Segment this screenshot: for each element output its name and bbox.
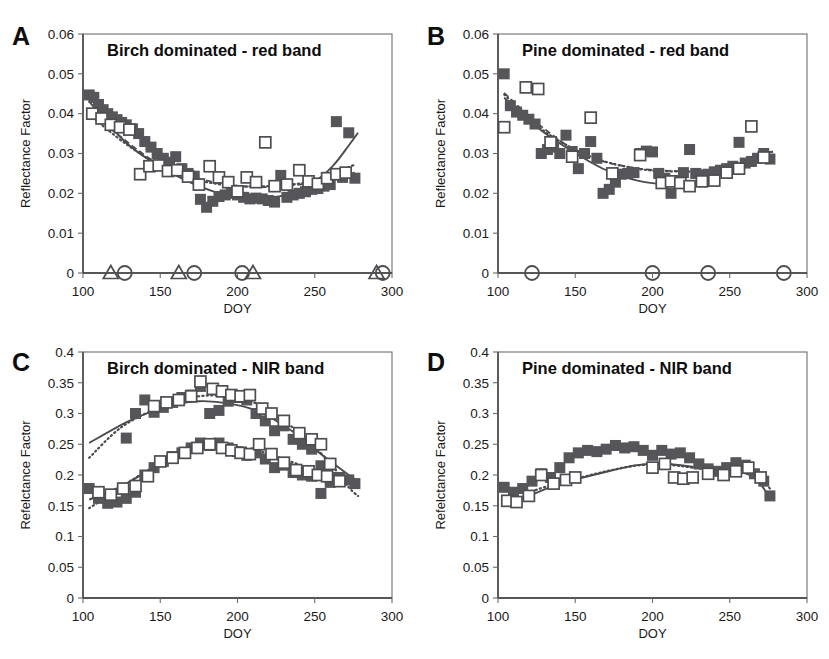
data-point-open [315,439,326,450]
data-point-open [254,439,265,450]
x-tick-label: 250 [303,609,326,624]
y-tick-label: 0.2 [470,468,489,483]
y-axis-title: Reflectance Factor [18,98,33,208]
data-point-open [179,447,190,458]
data-point-open [570,472,581,483]
data-point-open [192,442,203,453]
panel-letter-d: D [427,348,445,377]
data-point-open [118,483,129,494]
data-point-filled [130,408,141,419]
data-point-open [548,478,559,489]
panel-title: Pine dominated - NIR band [522,359,732,377]
data-point-open [533,83,544,94]
y-tick-label: 0 [66,591,74,606]
y-tick-label: 0.03 [48,146,74,161]
x-tick-label: 300 [381,284,404,299]
x-axis-title: DOY [638,301,667,316]
data-point-open [269,181,280,192]
panel-title: Birch dominated - red band [107,41,322,59]
x-axis-title: DOY [638,626,667,641]
data-point-filled [585,136,596,147]
data-point-filled [764,490,775,501]
data-point-filled [315,488,326,499]
data-point-open [499,122,510,133]
data-point-open [758,152,769,163]
y-tick-label: 0.25 [48,437,74,452]
data-point-open [281,179,292,190]
y-tick-label: 0.15 [48,499,74,514]
data-point-open [325,458,336,469]
y-tick-label: 0.01 [48,226,74,241]
data-point-open [266,449,277,460]
y-tick-label: 0.25 [463,437,489,452]
data-point-open [294,165,305,176]
y-tick-label: 0.4 [55,345,74,360]
data-point-open [709,175,720,186]
x-tick-label: 200 [226,284,249,299]
data-point-open [155,456,166,467]
x-tick-label: 150 [149,609,172,624]
y-tick-label: 0.3 [55,406,74,421]
data-point-open [743,462,754,473]
data-point-open [93,487,104,498]
x-tick-label: 250 [718,609,741,624]
y-tick-label: 0.05 [48,67,74,82]
data-point-filled [684,144,695,155]
data-point-filled [530,119,541,130]
data-point-open [536,470,547,481]
data-point-filled [554,462,565,473]
y-axis-title: Reflectance Factor [433,98,448,208]
data-point-open [734,163,745,174]
y-tick-label: 0.01 [463,226,489,241]
data-point-open [266,408,277,419]
x-tick-label: 100 [487,609,510,624]
data-point-open [520,82,531,93]
x-tick-label: 250 [718,284,741,299]
y-tick-label: 0.35 [48,376,74,391]
data-point-open [291,465,302,476]
data-point-filled [343,127,354,138]
data-point-open [142,471,153,482]
x-axis-title: DOY [223,301,252,316]
data-point-open [244,390,255,401]
data-point-open [718,470,729,481]
y-axis-title: Refelctance Factor [433,420,448,530]
x-tick-label: 150 [564,609,587,624]
data-point-open [659,458,670,469]
y-tick-label: 0.02 [463,186,489,201]
x-tick-label: 150 [149,284,172,299]
data-point-open [647,462,658,473]
y-tick-label: 0.06 [48,27,74,42]
data-point-open [545,137,556,148]
data-point-filled [499,68,510,79]
data-point-open [585,112,596,123]
chart-a: 00.010.020.030.040.050.06100150200250300… [0,0,414,329]
data-point-open [167,452,178,463]
x-tick-label: 200 [641,284,664,299]
data-point-open [149,401,160,412]
y-tick-label: 0.05 [463,560,489,575]
x-tick-label: 100 [487,284,510,299]
data-point-open [340,167,351,178]
data-point-filled [554,148,565,159]
x-tick-label: 250 [303,284,326,299]
y-tick-label: 0 [481,591,489,606]
data-point-open [193,179,204,190]
data-point-open [260,137,271,148]
y-tick-label: 0.05 [463,67,489,82]
panel-letter-c: C [12,348,30,377]
y-axis-title: Refelctance Factor [18,420,33,530]
plot-area-border [83,34,392,273]
panel-letter-b: B [427,22,445,51]
x-tick-label: 100 [72,284,95,299]
panel-a: A 00.010.020.030.040.050.061001502002503… [0,0,414,329]
data-point-filled [121,433,132,444]
data-point-open [696,176,707,187]
data-point-filled [560,130,571,141]
panel-d: D 00.050.10.150.20.250.30.350.4100150200… [415,330,829,659]
data-point-filled [734,137,745,148]
data-point-open [294,428,305,439]
figure-container: A 00.010.020.030.040.050.061001502002503… [0,0,829,659]
data-point-open [232,186,243,197]
data-point-open [567,151,578,162]
